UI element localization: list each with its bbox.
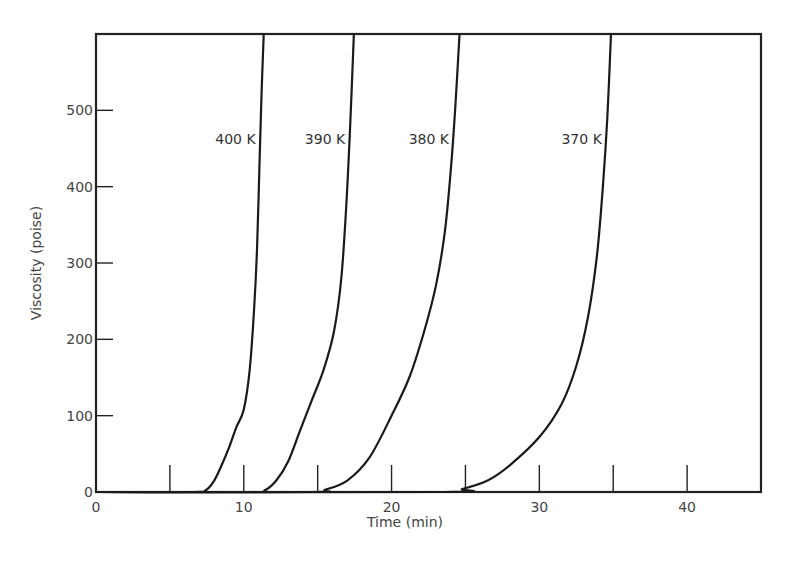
x-tick-label: 40: [678, 499, 696, 515]
curve-label: 390 K: [305, 131, 346, 147]
y-tick-label: 0: [84, 484, 93, 500]
curve-labels: 400 K390 K380 K370 K: [215, 131, 602, 147]
plot-frame: [96, 34, 761, 492]
y-tick-label: 400: [66, 179, 93, 195]
curve-label: 370 K: [561, 131, 602, 147]
x-tick-label: 0: [92, 499, 101, 515]
axis-ticks: [96, 110, 687, 492]
curve-390k: [96, 34, 354, 492]
y-tick-label: 300: [66, 255, 93, 271]
curve-380k: [96, 34, 460, 492]
x-tick-label: 20: [383, 499, 401, 515]
y-tick-label: 200: [66, 331, 93, 347]
x-axis-label: Time (min): [366, 514, 443, 530]
x-tick-label: 30: [530, 499, 548, 515]
curve-400k: [96, 34, 264, 492]
y-tick-label: 500: [66, 102, 93, 118]
y-axis-label: Viscosity (poise): [28, 206, 44, 320]
y-tick-label: 100: [66, 408, 93, 424]
tick-labels: 0102030400100200300400500: [66, 102, 696, 515]
curves: [96, 34, 611, 492]
x-tick-label: 10: [235, 499, 253, 515]
curve-370k: [96, 34, 611, 492]
curve-label: 400 K: [215, 131, 256, 147]
curve-label: 380 K: [409, 131, 450, 147]
viscosity-chart: 0102030400100200300400500 400 K390 K380 …: [0, 0, 788, 567]
